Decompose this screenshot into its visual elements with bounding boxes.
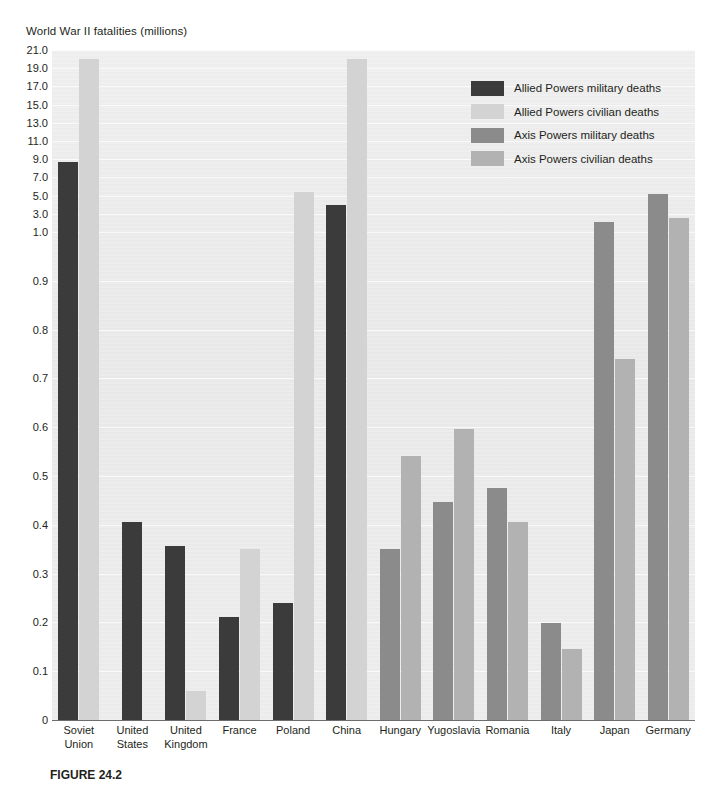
- legend-swatch-icon: [471, 151, 504, 166]
- bar[interactable]: [487, 488, 507, 720]
- legend-swatch-icon: [471, 81, 504, 96]
- bar-group: [106, 50, 160, 720]
- x-axis-tick-label: Soviet Union: [52, 724, 106, 751]
- bar-group: [320, 50, 374, 720]
- bar[interactable]: [122, 522, 142, 720]
- x-axis-tick-label: Italy: [534, 724, 588, 738]
- legend-item-label: Axis Powers military deaths: [514, 129, 655, 141]
- bar-group: [52, 50, 106, 720]
- legend-item-label: Axis Powers civilian deaths: [514, 153, 653, 165]
- bar-group: [266, 50, 320, 720]
- y-axis-tick-label: 0.3: [0, 568, 48, 580]
- bar[interactable]: [541, 623, 561, 720]
- bar[interactable]: [273, 603, 293, 720]
- x-axis-tick-label: France: [213, 724, 267, 738]
- legend-item[interactable]: Allied Powers civilian deaths: [471, 102, 661, 122]
- x-axis-line: [52, 720, 695, 721]
- figure-caption: FIGURE 24.2: [50, 768, 700, 782]
- bar[interactable]: [165, 546, 185, 720]
- bar[interactable]: [615, 359, 635, 720]
- x-axis-tick-label: Hungary: [374, 724, 428, 738]
- y-axis-tick-label: 11.0: [0, 135, 48, 147]
- x-axis-tick-label: Yugoslavia: [427, 724, 481, 738]
- y-axis-tick-label: 0.8: [0, 324, 48, 336]
- x-axis-tick-label: United States: [106, 724, 160, 751]
- y-axis-tick-label: 0: [0, 714, 48, 726]
- bar[interactable]: [294, 192, 314, 720]
- y-axis-tick-label: 3.0: [0, 208, 48, 220]
- y-axis-tick-label: 0.6: [0, 421, 48, 433]
- x-axis-tick-label: Japan: [588, 724, 642, 738]
- y-axis: 00.10.20.30.40.50.60.70.80.91.03.05.07.0…: [0, 50, 48, 720]
- x-axis-tick-label: Romania: [481, 724, 535, 738]
- y-axis-tick-label: 19.0: [0, 62, 48, 74]
- y-axis-tick-label: 1.0: [0, 226, 48, 238]
- legend-item[interactable]: Allied Powers military deaths: [471, 78, 661, 98]
- bar-group: [159, 50, 213, 720]
- x-axis-tick-label: China: [320, 724, 374, 738]
- y-axis-tick-label: 21.0: [0, 44, 48, 56]
- bar-group: [213, 50, 267, 720]
- x-axis-tick-label: United Kingdom: [159, 724, 213, 751]
- y-axis-tick-label: 9.0: [0, 153, 48, 165]
- y-axis-tick-label: 0.2: [0, 616, 48, 628]
- bar[interactable]: [594, 222, 614, 720]
- bar[interactable]: [380, 549, 400, 720]
- legend-item-label: Allied Powers military deaths: [514, 82, 661, 94]
- bar[interactable]: [240, 549, 260, 720]
- bar[interactable]: [508, 522, 528, 720]
- legend-swatch-icon: [471, 128, 504, 143]
- bar[interactable]: [58, 162, 78, 720]
- legend: Allied Powers military deathsAllied Powe…: [471, 78, 661, 172]
- y-axis-tick-label: 0.9: [0, 275, 48, 287]
- legend-swatch-icon: [471, 104, 504, 119]
- bar[interactable]: [347, 59, 367, 720]
- legend-item[interactable]: Axis Powers military deaths: [471, 125, 661, 145]
- y-axis-tick-label: 0.7: [0, 372, 48, 384]
- y-axis-tick-label: 17.0: [0, 80, 48, 92]
- x-axis-tick-label: Germany: [641, 724, 695, 738]
- page-title: World War II fatalities (millions): [26, 25, 187, 37]
- y-axis-tick-label: 0.1: [0, 665, 48, 677]
- bar[interactable]: [326, 205, 346, 720]
- x-axis-tick-label: Poland: [266, 724, 320, 738]
- y-axis-tick-label: 7.0: [0, 171, 48, 183]
- legend-item[interactable]: Axis Powers civilian deaths: [471, 149, 661, 169]
- y-axis-tick-label: 5.0: [0, 190, 48, 202]
- bar[interactable]: [433, 502, 453, 720]
- bar[interactable]: [79, 59, 99, 720]
- bar[interactable]: [669, 218, 689, 720]
- bar[interactable]: [648, 194, 668, 720]
- legend-item-label: Allied Powers civilian deaths: [514, 106, 659, 118]
- y-axis-tick-label: 0.4: [0, 519, 48, 531]
- bar[interactable]: [219, 617, 239, 720]
- bar-group: [374, 50, 428, 720]
- bar[interactable]: [401, 456, 421, 720]
- y-axis-tick-label: 0.5: [0, 470, 48, 482]
- bar[interactable]: [562, 649, 582, 720]
- y-axis-tick-label: 13.0: [0, 117, 48, 129]
- y-axis-tick-label: 15.0: [0, 99, 48, 111]
- bar[interactable]: [454, 429, 474, 720]
- bar[interactable]: [186, 691, 206, 720]
- figure-ww2-fatalities: World War II fatalities (millions) 00.10…: [0, 0, 705, 785]
